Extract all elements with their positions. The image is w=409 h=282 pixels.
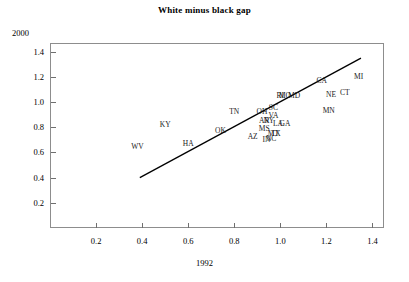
data-point-mn: MN <box>323 107 335 115</box>
data-point-az: AZ <box>248 134 258 142</box>
y-tick-mark <box>51 52 56 53</box>
y-tick-label: 0.2 <box>14 198 44 208</box>
data-point-mi: MI <box>354 73 363 81</box>
x-tick-mark <box>96 223 97 228</box>
data-point-wv: WV <box>131 144 144 152</box>
x-tick-label: 0.2 <box>81 236 111 246</box>
y-tick-label: 1.2 <box>14 72 44 82</box>
y-tick-label: 0.6 <box>14 147 44 157</box>
x-tick-label: 1.2 <box>311 236 341 246</box>
data-point-ne: NE <box>326 91 336 99</box>
plot-frame <box>50 43 384 228</box>
y-tick-label: 1.0 <box>14 97 44 107</box>
data-point-md: MD <box>288 92 300 100</box>
x-tick-mark <box>188 223 189 228</box>
x-tick-mark <box>280 223 281 228</box>
chart-title: White minus black gap <box>0 5 409 15</box>
x-tick-label: 0.4 <box>127 236 157 246</box>
y-tick-mark <box>51 127 56 128</box>
y-tick-label: 0.4 <box>14 173 44 183</box>
data-point-ga: GA <box>280 120 291 128</box>
x-tick-label: 1.0 <box>265 236 295 246</box>
y-tick-mark <box>51 77 56 78</box>
x-tick-label: 0.6 <box>173 236 203 246</box>
y-tick-label: 0.8 <box>14 122 44 132</box>
x-tick-mark <box>326 223 327 228</box>
y-tick-label: 1.4 <box>14 47 44 57</box>
data-point-oh: OH <box>256 108 267 116</box>
y-tick-mark <box>51 152 56 153</box>
data-point-tn: TN <box>229 108 239 116</box>
x-axis-label: 1992 <box>0 258 409 268</box>
data-point-ky: KY <box>160 121 171 129</box>
data-point-ok: OK <box>215 127 226 135</box>
y-axis-label: 2000 <box>12 28 29 38</box>
x-tick-mark <box>142 223 143 228</box>
x-tick-mark <box>234 223 235 228</box>
data-point-ca: CA <box>317 77 327 85</box>
data-point-tx: TX <box>271 130 281 138</box>
x-tick-label: 1.4 <box>357 236 387 246</box>
y-tick-mark <box>51 203 56 204</box>
x-tick-mark <box>372 223 373 228</box>
data-point-ct: CT <box>340 90 350 98</box>
y-tick-mark <box>51 102 56 103</box>
x-tick-label: 0.8 <box>219 236 249 246</box>
scatter-chart: White minus black gap 2000 0.20.40.60.81… <box>0 0 409 282</box>
y-tick-mark <box>51 178 56 179</box>
data-point-ha: HA <box>183 140 194 148</box>
